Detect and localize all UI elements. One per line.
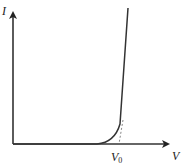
x-axis-label: V bbox=[172, 150, 179, 162]
iv-plot bbox=[0, 0, 182, 166]
threshold-voltage-label: V0 bbox=[111, 151, 122, 166]
iv-diagram: I V V0 bbox=[0, 0, 182, 166]
iv-curve bbox=[13, 8, 128, 144]
y-axis-label: I bbox=[2, 5, 6, 17]
threshold-label-sub: 0 bbox=[118, 156, 122, 165]
